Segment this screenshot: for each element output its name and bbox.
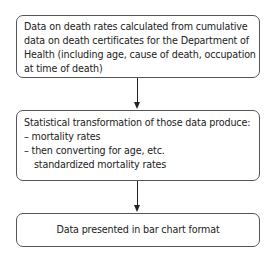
source-data-box: Data on death rates calculated from cumu… xyxy=(16,15,260,78)
arrow-line-2 xyxy=(137,181,138,206)
box-text: at time of death) xyxy=(24,62,259,76)
arrowhead-down-icon xyxy=(134,102,140,109)
box-text: Statistical transformation of those data… xyxy=(24,116,259,130)
bar-chart-output-box: Data presented in bar chart format xyxy=(16,213,260,247)
arrowhead-down-icon xyxy=(134,205,140,212)
box-text: Health (including age, cause of death, o… xyxy=(24,48,259,62)
box-text: – mortality rates xyxy=(24,130,259,144)
box-text: Data on death rates calculated from cumu… xyxy=(24,20,259,34)
box-text: – then converting for age, etc. xyxy=(24,144,259,158)
box-text: standardized mortality rates xyxy=(24,158,259,172)
box-text: Data presented in bar chart format xyxy=(17,223,259,237)
statistical-transformation-box: Statistical transformation of those data… xyxy=(16,110,260,181)
box-text: data on death certificates for the Depar… xyxy=(24,34,259,48)
arrow-line-1 xyxy=(137,78,138,103)
